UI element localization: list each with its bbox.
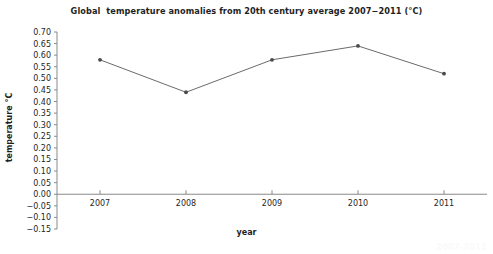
svg-text:0.55: 0.55 xyxy=(33,63,51,72)
svg-text:0.60: 0.60 xyxy=(33,51,51,60)
y-axis-ticks: 0.700.650.600.550.500.450.400.350.300.25… xyxy=(26,28,57,234)
chart-container: Global temperature anomalies from 20th c… xyxy=(0,0,493,254)
plot-area: 0.700.650.600.550.500.450.400.350.300.25… xyxy=(0,0,493,254)
svg-text:−0.05: −0.05 xyxy=(26,202,51,211)
svg-text:0.45: 0.45 xyxy=(33,86,51,95)
svg-text:0.10: 0.10 xyxy=(33,167,51,176)
svg-text:2009: 2009 xyxy=(262,199,282,208)
svg-text:0.25: 0.25 xyxy=(33,132,51,141)
x-axis-label: year xyxy=(0,228,493,237)
svg-text:−0.10: −0.10 xyxy=(26,213,51,222)
data-point-markers xyxy=(98,44,446,94)
svg-text:0.00: 0.00 xyxy=(33,190,51,199)
data-series-line xyxy=(100,46,444,92)
svg-text:2007: 2007 xyxy=(90,199,110,208)
svg-text:0.05: 0.05 xyxy=(33,179,51,188)
watermark-text: 2007‑2011 xyxy=(436,243,487,252)
svg-text:0.15: 0.15 xyxy=(33,155,51,164)
svg-text:0.70: 0.70 xyxy=(33,28,51,37)
svg-text:0.35: 0.35 xyxy=(33,109,51,118)
svg-text:0.50: 0.50 xyxy=(33,74,51,83)
svg-text:2011: 2011 xyxy=(434,199,454,208)
svg-text:2008: 2008 xyxy=(176,199,196,208)
svg-text:0.65: 0.65 xyxy=(33,40,51,49)
svg-text:2010: 2010 xyxy=(348,199,368,208)
svg-text:0.40: 0.40 xyxy=(33,98,51,107)
svg-text:0.30: 0.30 xyxy=(33,121,51,130)
svg-text:0.20: 0.20 xyxy=(33,144,51,153)
x-axis-ticks: 20072008200920102011 xyxy=(90,190,454,208)
